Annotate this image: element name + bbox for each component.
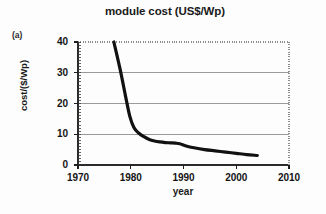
y-tick-label: 40 — [42, 37, 68, 47]
y-tick-label: 20 — [42, 99, 68, 109]
y-axis-minor-ticks — [78, 42, 81, 165]
x-tick-label: 2000 — [214, 173, 258, 183]
axis-major-ticks — [74, 42, 289, 169]
x-tick-label: 2010 — [267, 173, 311, 183]
x-tick-label: 1970 — [56, 173, 100, 183]
y-tick-label: 10 — [42, 129, 68, 139]
y-tick-label: 0 — [42, 160, 68, 170]
gridlines — [78, 73, 289, 135]
figure-panel: (a) module cost (US$/Wp) cost/($/Wp) yea… — [0, 0, 326, 214]
x-tick-label: 1990 — [162, 173, 206, 183]
y-tick-label: 30 — [42, 68, 68, 78]
data-series-group — [114, 42, 257, 155]
x-tick-label: 1980 — [109, 173, 153, 183]
data-line-module-cost — [114, 42, 257, 155]
